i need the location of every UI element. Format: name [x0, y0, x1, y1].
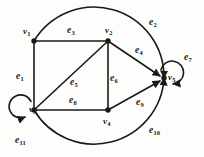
vertex-v1-dot: [31, 38, 36, 43]
edge-label-e6: e6: [110, 74, 117, 84]
edge-e10-path: [34, 78, 164, 144]
vertex-v4-dot: [105, 107, 110, 112]
edge-label-e8: e8: [69, 96, 76, 106]
edge-e11-loop-path: [9, 95, 31, 118]
graph-figure: v1 v2 v3 v4 v5 e1 e2 e3 e4 e5 e6 e7 e8 e…: [0, 0, 204, 157]
vertex-label-v2: v2: [105, 26, 112, 35]
edge-label-e1: e1: [16, 72, 23, 82]
edge-label-e5: e5: [70, 78, 77, 88]
edge-label-e11: e11: [15, 136, 25, 146]
vertex-label-v3: v3: [29, 105, 36, 114]
edge-label-e9: e9: [136, 98, 143, 108]
edge-e4-path: [108, 41, 160, 76]
vertex-label-v5: v5: [168, 73, 175, 82]
edge-label-e3: e3: [67, 26, 74, 36]
edge-label-e4: e4: [135, 46, 142, 56]
vertex-v2-dot: [105, 38, 110, 43]
edge-label-e10: e10: [149, 126, 160, 136]
vertex-v5-dot: [161, 75, 166, 80]
vertex-label-v1: v1: [23, 27, 30, 36]
edge-label-e7: e7: [184, 53, 191, 63]
vertex-label-v4: v4: [103, 117, 110, 126]
edge-label-e2: e2: [149, 18, 156, 28]
edge-e9-path: [108, 81, 160, 110]
edge-e2-path: [34, 7, 164, 78]
